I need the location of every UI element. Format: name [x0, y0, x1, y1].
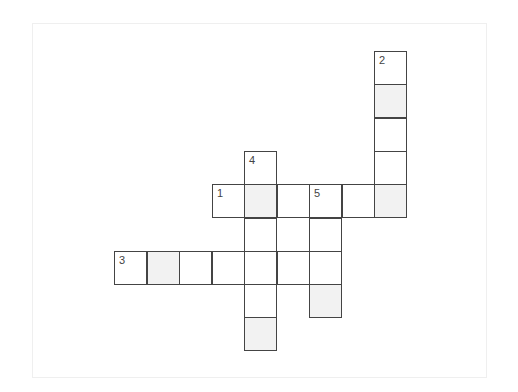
grid-cell-r3-c8[interactable]: [374, 151, 407, 185]
grid-cell-r7-c6[interactable]: [309, 284, 342, 318]
grid-cell-r6-c5[interactable]: [277, 251, 310, 285]
clue-number: 1: [217, 188, 223, 199]
clue-number: 4: [249, 155, 255, 166]
grid-cell-r8-c4[interactable]: [244, 317, 277, 351]
grid-cell-r7-c4[interactable]: [244, 284, 277, 318]
grid-cell-r5-c6[interactable]: [309, 218, 342, 252]
grid-cell-r6-c6[interactable]: [309, 251, 342, 285]
grid-cell-r5-c4[interactable]: [244, 218, 277, 252]
grid-cell-r6-c0[interactable]: 3: [114, 251, 147, 285]
grid-cell-r1-c8[interactable]: [374, 84, 407, 118]
grid-cell-r4-c7[interactable]: [342, 184, 375, 218]
grid-cell-r4-c5[interactable]: [277, 184, 310, 218]
grid-cell-r6-c4[interactable]: [244, 251, 277, 285]
grid-cell-r6-c1[interactable]: [147, 251, 180, 285]
grid-cell-r6-c3[interactable]: [212, 251, 245, 285]
grid-cell-r4-c8[interactable]: [374, 184, 407, 218]
grid-cell-r6-c2[interactable]: [179, 251, 212, 285]
grid-cell-r4-c6[interactable]: 5: [309, 184, 342, 218]
grid-cell-r4-c3[interactable]: 1: [212, 184, 245, 218]
grid-cell-r0-c8[interactable]: 2: [374, 51, 407, 85]
grid-cell-r2-c8[interactable]: [374, 118, 407, 152]
grid-cell-r3-c4[interactable]: 4: [244, 151, 277, 185]
grid-cell-r4-c4[interactable]: [244, 184, 277, 218]
clue-number: 3: [119, 255, 125, 266]
clue-number: 2: [379, 55, 385, 66]
clue-number: 5: [314, 188, 320, 199]
